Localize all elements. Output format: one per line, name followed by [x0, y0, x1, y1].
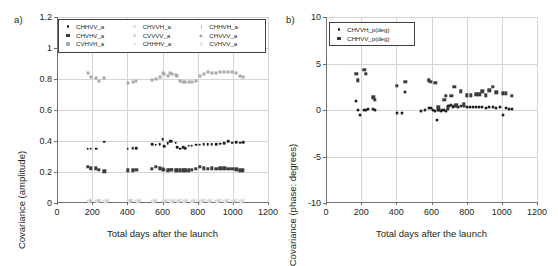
- data-point: [211, 198, 214, 201]
- legend-swatch: [129, 34, 141, 37]
- data-point: [155, 198, 158, 201]
- panel-b: b)020040060080010001200-10-50510Total da…: [279, 0, 558, 254]
- x-axis-tick-label: 400: [120, 207, 135, 217]
- data-point: [373, 98, 376, 101]
- data-point: [395, 84, 398, 87]
- legend-swatch: [129, 25, 141, 28]
- legend-swatch: [333, 28, 345, 31]
- data-point: [203, 198, 206, 201]
- legend-swatch: [62, 25, 74, 28]
- x-axis-tick: [396, 202, 397, 205]
- legend-swatch: [62, 34, 74, 37]
- legend-label: CVHVV_a: [207, 40, 237, 47]
- y-axis-tick-label: 1: [12, 43, 52, 53]
- legend: CHHVV_aCHVHV_aCVHVH_aCHVVH_aCVVVV_aCHHHV…: [58, 19, 266, 53]
- data-point: [356, 79, 359, 82]
- legend-swatch: [129, 43, 141, 46]
- legend-entry: CVVVV_a: [129, 31, 196, 40]
- x-axis-tick-label: 600: [424, 207, 439, 217]
- data-point: [131, 198, 134, 201]
- data-point: [465, 93, 468, 96]
- data-point: [140, 198, 143, 201]
- x-axis-tick-label: 400: [389, 207, 404, 217]
- data-point: [227, 198, 230, 201]
- x-axis-tick-label: 600: [155, 207, 170, 217]
- x-axis-tick-label: 200: [85, 207, 100, 217]
- legend-column: CHVVH_aCVVVV_aCHHHV_a: [129, 23, 196, 50]
- data-point: [504, 92, 507, 95]
- legend-entry: CHVVH_p(deg): [333, 26, 411, 35]
- x-axis-tick: [92, 202, 93, 205]
- data-point: [484, 93, 487, 96]
- legend-label: CHVHV_a: [74, 32, 104, 39]
- y-axis-tick-label: 0.6: [12, 105, 52, 115]
- legend-swatch: [195, 42, 207, 45]
- x-axis-tick: [467, 202, 468, 205]
- legend-entry: CHVHV_a: [62, 31, 129, 40]
- square-marker-icon: [133, 34, 136, 37]
- x-axis-tick-label: 800: [190, 207, 205, 217]
- y-axis-tick-label: 10: [281, 12, 321, 22]
- legend-entry: CHHHV_a: [129, 40, 196, 49]
- x-axis-tick-label: 1200: [527, 207, 547, 217]
- x-axis-tick-label: 1000: [492, 207, 512, 217]
- triangle-marker-icon: [199, 34, 203, 37]
- data-point: [99, 198, 102, 201]
- data-point: [91, 198, 94, 201]
- legend-swatch: [195, 34, 207, 37]
- x-axis-tick-label: 1200: [258, 207, 278, 217]
- y-axis-tick: [323, 203, 326, 204]
- data-point: [449, 94, 452, 97]
- gridline-vertical: [268, 17, 269, 203]
- x-axis-tick: [198, 202, 199, 205]
- square-marker-icon: [66, 42, 69, 45]
- legend-swatch: [195, 25, 207, 29]
- bar-marker-icon: [201, 25, 202, 29]
- y-axis-title: Covariance (amplitude): [16, 151, 27, 249]
- data-point: [453, 85, 456, 88]
- x-axis-tick: [361, 202, 362, 205]
- data-point: [446, 106, 449, 109]
- data-point: [195, 198, 198, 201]
- legend-swatch: [333, 37, 345, 40]
- data-point: [355, 72, 358, 75]
- circle-marker-icon: [338, 28, 341, 31]
- legend-entry: CHVVV_a: [195, 31, 262, 40]
- data-point: [434, 81, 437, 84]
- legend-label: CHHVV_p(deg): [345, 35, 389, 42]
- x-axis-tick-label: 1000: [223, 207, 243, 217]
- x-axis-tick: [268, 202, 269, 205]
- x-axis-tick: [127, 202, 128, 205]
- legend: CHVVH_p(deg)CHHVV_p(deg): [329, 22, 415, 46]
- legend-column: CHVVH_p(deg)CHHVV_p(deg): [333, 26, 411, 43]
- x-axis-tick: [233, 202, 234, 205]
- x-axis-tick-label: 0: [54, 207, 59, 217]
- y-axis-tick-label: 0.4: [12, 136, 52, 146]
- x-axis-tick: [163, 202, 164, 205]
- legend-label: CHVVV_a: [207, 32, 237, 39]
- data-point: [243, 198, 246, 201]
- x-axis-tick-label: 200: [354, 207, 369, 217]
- y-axis-tick: [54, 79, 57, 80]
- data-point: [444, 94, 447, 97]
- y-axis-tick-label: 0.8: [12, 74, 52, 84]
- legend-entry: CHHVV_p(deg): [333, 34, 411, 43]
- y-axis-title: Covariance (phase: degrees): [287, 144, 298, 266]
- legend-entry: CVHVV_a: [195, 40, 262, 49]
- x-axis-title: Total days after the launch: [376, 228, 487, 239]
- legend-label: CHVVH_a: [141, 23, 171, 30]
- data-point: [462, 103, 465, 106]
- legend-entry: CVHVH_a: [62, 40, 129, 49]
- legend-label: CVHVH_a: [74, 40, 104, 47]
- x-axis-tick: [537, 202, 538, 205]
- x-axis-tick: [57, 202, 58, 205]
- data-point: [187, 198, 190, 201]
- data-point: [404, 80, 407, 83]
- legend-entry: CHHVV_a: [62, 23, 129, 32]
- data-point: [174, 198, 177, 201]
- legend-column: CHHVV_aCHVHV_aCVHVH_a: [62, 23, 129, 50]
- data-point: [180, 198, 183, 201]
- legend-swatch: [62, 42, 74, 45]
- y-axis-tick: [54, 172, 57, 173]
- y-axis-tick: [323, 64, 326, 65]
